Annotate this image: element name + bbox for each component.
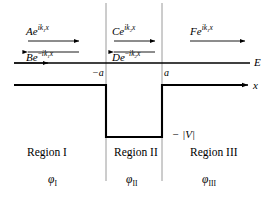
wave-label-B: Be−ik1x bbox=[26, 50, 53, 63]
energy-axis-label: E bbox=[254, 57, 261, 68]
wave-label-D: De−ik2x bbox=[112, 50, 140, 63]
wave-D-coef: D bbox=[112, 51, 120, 63]
wave-label-A: Aeik1x bbox=[26, 24, 49, 37]
well-depth-label: − |V| bbox=[172, 129, 195, 140]
phi-2-subscript: II bbox=[132, 179, 137, 188]
wave-A-var: x bbox=[46, 23, 49, 32]
wave-C-var: x bbox=[132, 23, 135, 32]
wave-B-var: x bbox=[50, 49, 53, 58]
phi-1-subscript: I bbox=[54, 179, 57, 188]
potential-curve bbox=[14, 85, 245, 137]
wavefunction-label-1: φI bbox=[48, 174, 57, 188]
wave-label-F: Feik1x bbox=[190, 24, 213, 37]
region-label-1: Region I bbox=[27, 147, 67, 159]
region-label-3: Region III bbox=[190, 147, 238, 159]
wave-label-C: Ceik2x bbox=[112, 24, 135, 37]
wave-F-coef: F bbox=[190, 25, 197, 37]
x-axis-label: x bbox=[253, 80, 258, 91]
tick-label-a: a bbox=[164, 68, 169, 78]
phi-3-subscript: III bbox=[208, 179, 216, 188]
wave-F-var: x bbox=[210, 23, 213, 32]
wave-B-coef: B bbox=[26, 51, 33, 63]
wavefunction-label-3: φIII bbox=[202, 174, 216, 188]
wave-D-var: x bbox=[137, 49, 140, 58]
tick-label-minus-a: −a bbox=[92, 68, 104, 78]
region-label-2: Region II bbox=[114, 147, 158, 159]
potential-well-diagram: Aeik1x Be−ik1x Ceik2x De−ik2x Feik1x E x… bbox=[0, 0, 269, 201]
wave-A-coef: A bbox=[26, 25, 33, 37]
wavefunction-label-2: φII bbox=[126, 174, 137, 188]
